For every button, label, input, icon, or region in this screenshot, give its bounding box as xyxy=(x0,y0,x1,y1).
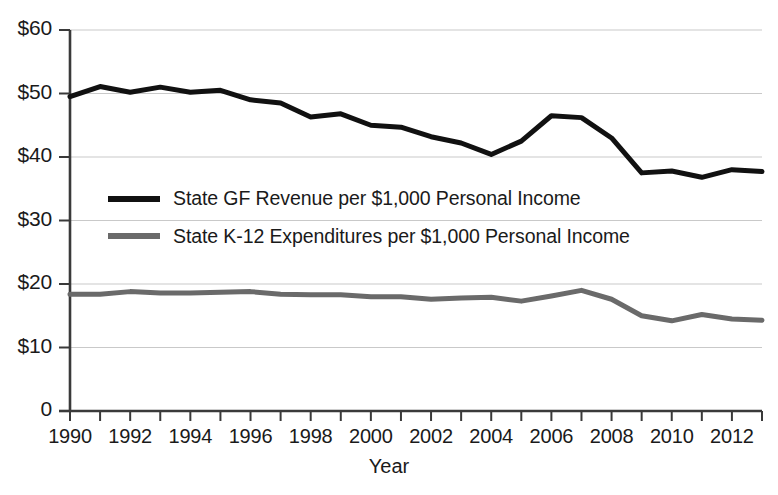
x-axis-tick-label: 2012 xyxy=(692,425,772,448)
series-line-1 xyxy=(70,87,762,178)
y-axis-tick-label: $60 xyxy=(18,16,52,40)
legend-entry-2: State K-12 Expenditures per $1,000 Perso… xyxy=(108,225,630,248)
series-line-2 xyxy=(70,290,762,320)
y-axis-tick-label: $30 xyxy=(18,207,52,231)
legend-label: State GF Revenue per $1,000 Personal Inc… xyxy=(173,187,581,210)
legend-swatch-icon xyxy=(108,196,160,202)
legend-label: State K-12 Expenditures per $1,000 Perso… xyxy=(173,225,630,248)
y-axis-tick-label: $40 xyxy=(18,143,52,167)
legend-swatch-icon xyxy=(108,233,160,239)
legend-entry-1: State GF Revenue per $1,000 Personal Inc… xyxy=(108,187,581,210)
y-axis-tick-label: $20 xyxy=(18,270,52,294)
y-axis-tick-label: $50 xyxy=(18,80,52,104)
y-axis-tick-label: $10 xyxy=(18,334,52,358)
x-axis-title: Year xyxy=(0,455,778,478)
line-chart-figure: 0$10$20$30$40$50$60 19901992199419961998… xyxy=(0,0,778,495)
x-axis-ticks xyxy=(70,411,762,421)
y-axis-tick-label: 0 xyxy=(41,397,52,421)
